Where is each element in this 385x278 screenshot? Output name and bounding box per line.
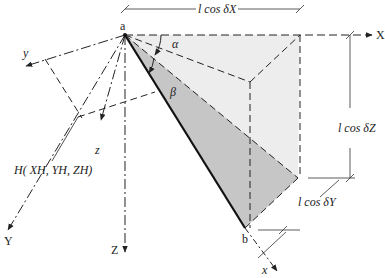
x-axis xyxy=(245,228,277,271)
y-axis-label: y xyxy=(23,47,28,59)
point-a-label: a xyxy=(120,20,125,32)
dimension-lz: l cos δZ xyxy=(338,122,376,134)
x-axis-label: x xyxy=(262,264,267,276)
dimension-lx: l cos δX xyxy=(196,3,238,15)
point-b-label: b xyxy=(242,233,248,245)
alpha-label: α xyxy=(172,38,178,50)
X-axis-label: X xyxy=(376,29,385,41)
z-axis xyxy=(101,35,125,120)
z-axis-label: z xyxy=(95,144,100,156)
Z-axis-label: Z xyxy=(111,244,118,256)
point-H-label: H( XH, YH, ZH) xyxy=(14,164,92,176)
Y-axis-label: Y xyxy=(4,235,13,247)
y-axis xyxy=(26,35,125,66)
Y-axis xyxy=(8,35,125,230)
diagram-canvas: a b X Y Z x y z α β l cos δX l cos δZ l … xyxy=(0,0,385,278)
geometry-svg xyxy=(0,0,385,278)
beta-label: β xyxy=(170,86,176,98)
dimension-ly: l cos δY xyxy=(298,196,336,208)
